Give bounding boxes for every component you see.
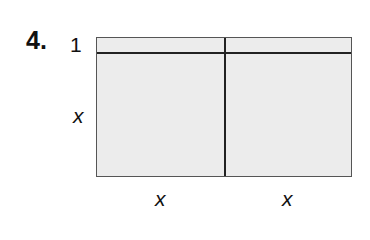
label-column-1-width: x [155, 187, 166, 211]
area-model-rectangle [96, 37, 352, 177]
problem-number: 4. [26, 26, 47, 55]
label-column-2-width: x [282, 187, 293, 211]
label-row-1-height: 1 [70, 33, 82, 57]
column-divider [224, 38, 226, 176]
label-row-x-height: x [73, 104, 84, 128]
